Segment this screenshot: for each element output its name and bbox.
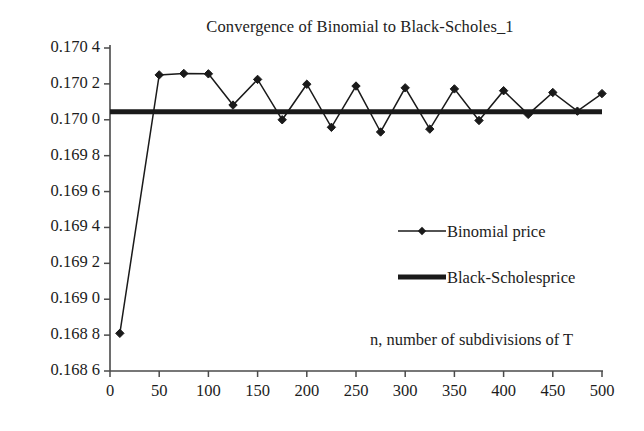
legend-markers <box>398 227 446 277</box>
legend-label-binomial-price: Binomial price <box>447 222 546 242</box>
y-tick-label: 0.169 0 <box>8 288 100 308</box>
y-tick-label: 0.169 2 <box>8 252 100 272</box>
y-tick-label: 0.169 8 <box>8 145 100 165</box>
y-tick-label: 0.170 0 <box>8 109 100 129</box>
y-tick-label: 0.169 6 <box>8 181 100 201</box>
y-tick-label: 0.170 2 <box>8 73 100 93</box>
y-tick-label: 0.170 4 <box>8 37 100 57</box>
y-tick-label: 0.169 4 <box>8 216 100 236</box>
chart-figure: Convergence of Binomial to Black-Scholes… <box>0 0 644 431</box>
x-axis-title: n, number of subdivisions of T <box>370 330 573 350</box>
x-axis-ticks <box>110 371 602 377</box>
y-axis-ticks <box>104 48 110 371</box>
axis-lines <box>110 45 603 371</box>
x-tick-label: 500 <box>572 381 632 401</box>
y-tick-label: 0.168 6 <box>8 360 100 380</box>
legend-label-black-scholes-price: Black-Scholesprice <box>447 268 575 288</box>
y-tick-label: 0.168 8 <box>8 324 100 344</box>
